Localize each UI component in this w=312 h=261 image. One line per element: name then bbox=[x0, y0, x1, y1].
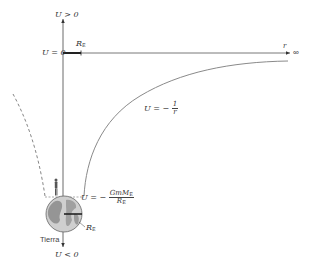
surface-eq-lhs: U = − bbox=[81, 193, 106, 202]
surface-equation-label: U = − GmME RE bbox=[81, 190, 134, 205]
re-top-label: RE bbox=[76, 40, 86, 48]
infinity-label: ∞ bbox=[293, 49, 299, 57]
surface-eq-den-sub: E bbox=[122, 199, 126, 205]
curve-eq-lhs: U = − bbox=[144, 104, 169, 113]
re-radius-label: RE bbox=[86, 224, 96, 232]
earth-label: Tierra bbox=[40, 236, 59, 244]
curve-eq-fraction: 1 r bbox=[172, 101, 178, 116]
surface-eq-fraction: GmME RE bbox=[109, 190, 134, 205]
surface-eq-den: RE bbox=[117, 198, 126, 205]
surface-eq-num-sub: E bbox=[129, 191, 133, 197]
u-zero-label: U = 0 bbox=[42, 49, 66, 57]
potential-energy-diagram bbox=[0, 0, 312, 261]
re-top-sub: E bbox=[82, 42, 86, 48]
re-radius-sub: E bbox=[92, 226, 96, 232]
u-positive-label: U > 0 bbox=[55, 11, 79, 19]
person-icon bbox=[55, 179, 58, 196]
surface-eq-num-main: GmM bbox=[110, 189, 129, 197]
r-axis-label: r bbox=[283, 43, 286, 50]
curve-equation-label: U = − 1 r bbox=[144, 101, 178, 116]
u-negative-label: U < 0 bbox=[55, 251, 79, 259]
radius-leader bbox=[79, 222, 85, 227]
potential-curve bbox=[84, 61, 288, 196]
curve-eq-den: r bbox=[173, 109, 176, 116]
dashed-trajectory bbox=[13, 94, 45, 196]
